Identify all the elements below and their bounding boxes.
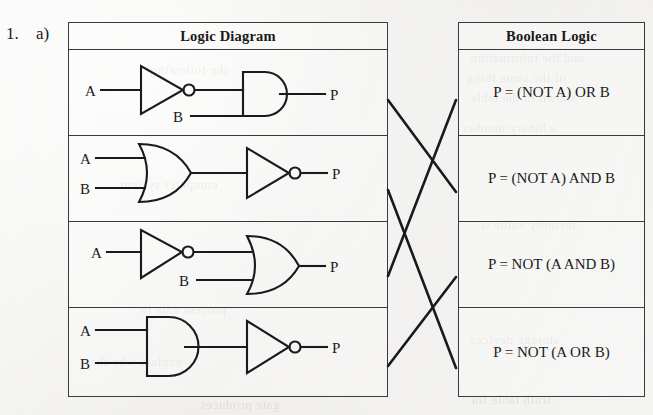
circuit-and-then-not: A B P xyxy=(69,308,387,396)
input-a-label: A xyxy=(85,83,96,99)
table-row[interactable]: A B P xyxy=(69,308,388,397)
logic-diagram-header: Logic Diagram xyxy=(69,23,388,50)
boolean-expression-3[interactable]: P = NOT (A AND B) xyxy=(459,222,645,308)
input-a-label: A xyxy=(91,245,102,261)
circuit-or-then-not: A B P xyxy=(69,136,387,221)
question-part-letter: a) xyxy=(36,24,49,44)
input-b-label: B xyxy=(80,356,90,372)
output-p-label: P xyxy=(332,340,340,356)
output-p-label: P xyxy=(330,87,338,103)
circuit-not-then-or: A B P xyxy=(69,222,387,307)
logic-diagram-cell-4[interactable]: A B P xyxy=(69,308,388,397)
boolean-logic-header-row: Boolean Logic xyxy=(459,23,645,50)
table-row[interactable]: P = NOT (A OR B) xyxy=(459,308,645,397)
boolean-expression-2[interactable]: P = (NOT A) AND B xyxy=(459,136,645,222)
boolean-logic-table: Boolean Logic P = (NOT A) OR B P = (NOT … xyxy=(458,22,645,397)
input-b-label: B xyxy=(179,273,189,289)
input-a-label: A xyxy=(80,151,91,167)
logic-diagram-cell-2[interactable]: A B P xyxy=(69,136,388,222)
input-a-label: A xyxy=(80,323,91,339)
logic-diagram-table: Logic Diagram A B P xyxy=(68,22,388,397)
circuit-not-then-and: A B P xyxy=(69,50,387,135)
boolean-logic-header: Boolean Logic xyxy=(459,23,645,50)
input-b-label: B xyxy=(80,181,90,197)
boolean-expression-4[interactable]: P = NOT (A OR B) xyxy=(459,308,645,397)
table-row[interactable]: P = (NOT A) OR B xyxy=(459,50,645,136)
logic-diagram-header-row: Logic Diagram xyxy=(69,23,388,50)
table-row[interactable]: P = (NOT A) AND B xyxy=(459,136,645,222)
table-row[interactable]: P = NOT (A AND B) xyxy=(459,222,645,308)
input-b-label: B xyxy=(173,109,183,125)
table-row[interactable]: A B P xyxy=(69,50,388,136)
table-row[interactable]: A B P xyxy=(69,222,388,308)
output-p-label: P xyxy=(330,259,338,275)
boolean-expression-1[interactable]: P = (NOT A) OR B xyxy=(459,50,645,136)
output-p-label: P xyxy=(332,166,340,182)
table-row[interactable]: A B P xyxy=(69,136,388,222)
logic-diagram-cell-1[interactable]: A B P xyxy=(69,50,388,136)
question-number: 1. xyxy=(6,24,19,44)
logic-diagram-cell-3[interactable]: A B P xyxy=(69,222,388,308)
